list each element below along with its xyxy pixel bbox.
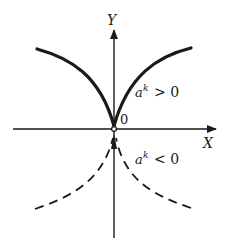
origin-point [112, 127, 117, 132]
lower-condition-exp: k [143, 150, 148, 160]
upper-condition-base: a [135, 85, 143, 100]
upper-cusp-curve-left [37, 49, 114, 126]
upper-condition-exp: k [143, 83, 148, 93]
upper-condition-label: a k > 0 [135, 83, 179, 100]
lower-cusp-curve-left [35, 138, 113, 209]
lower-condition-rel: < 0 [154, 151, 179, 167]
lower-condition-label: a k < 0 [135, 150, 179, 167]
upper-condition-rel: > 0 [154, 84, 179, 100]
x-axis-label: X [202, 135, 214, 151]
cusp-diagram: Y X 0 a k > 0 a k < 0 [0, 0, 231, 241]
lower-cusp-curve-right [116, 138, 191, 208]
y-axis-label: Y [107, 12, 118, 28]
lower-condition-base: a [135, 152, 143, 167]
origin-label: 0 [120, 112, 128, 127]
